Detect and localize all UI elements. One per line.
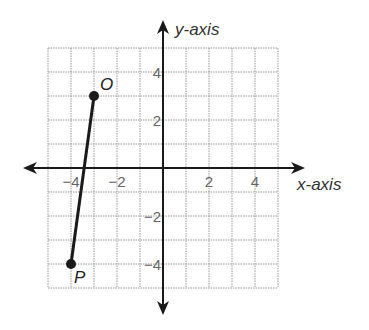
point-o-label: O: [100, 75, 113, 94]
y-tick-label: 4: [153, 64, 161, 81]
point-p-label: P: [74, 268, 86, 287]
x-tick-label: 2: [205, 173, 213, 190]
y-axis-label: y-axis: [174, 20, 220, 39]
point-o-marker: [89, 91, 99, 101]
coordinate-plane: −4−22442−2−4 x-axis y-axis OP: [0, 0, 369, 330]
y-tick-label: 2: [153, 112, 161, 129]
x-tick-label: −4: [62, 173, 79, 190]
x-axis-label: x-axis: [296, 175, 342, 194]
x-tick-label: 4: [251, 173, 259, 190]
y-tick-label: −4: [144, 256, 161, 273]
y-tick-label: −2: [144, 208, 161, 225]
x-tick-label: −2: [108, 173, 125, 190]
axes: [23, 20, 305, 315]
